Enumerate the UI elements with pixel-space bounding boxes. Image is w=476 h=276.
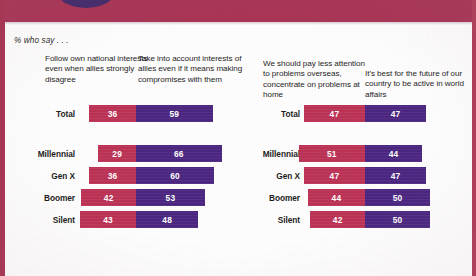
- page-border-left: [0, 0, 5, 276]
- bar-value-right: 50: [393, 193, 403, 203]
- stacked-bar: 4250: [310, 211, 430, 228]
- page-border-right: [472, 0, 476, 276]
- stacked-bar: 4253: [81, 189, 205, 206]
- header-band: [0, 0, 476, 22]
- bar-segment-right: 50: [365, 211, 430, 228]
- bar-value-left: 36: [108, 171, 118, 181]
- bar-segment-left: 42: [310, 211, 365, 228]
- bar-value-left: 36: [108, 109, 118, 119]
- chart-row: Silent4250: [240, 211, 472, 228]
- bar-value-left: 44: [332, 193, 342, 203]
- bar-value-right: 50: [393, 215, 403, 225]
- row-label-boomer: Boomer: [240, 193, 300, 203]
- chart-row: Boomer4450: [240, 189, 472, 206]
- bar-value-right: 47: [391, 109, 401, 119]
- bar-segment-right: 53: [136, 189, 205, 206]
- chart-row: Gen X4747: [240, 167, 472, 184]
- row-label-boomer: Boomer: [5, 193, 75, 203]
- bar-value-right: 44: [389, 149, 399, 159]
- bar-value-left: 42: [104, 193, 114, 203]
- bar-segment-right: 60: [136, 167, 214, 184]
- stacked-bar: 3659: [89, 105, 213, 122]
- bar-value-right: 60: [170, 171, 180, 181]
- decorative-ellipse: [58, 0, 114, 8]
- bar-segment-right: 47: [365, 105, 426, 122]
- question-header-0: Follow own national interests even when …: [45, 54, 150, 85]
- bar-value-right: 66: [174, 149, 184, 159]
- band-shadow: [0, 22, 476, 25]
- bar-segment-right: 66: [136, 145, 222, 162]
- chart-row: Boomer4253: [5, 189, 245, 206]
- stacked-bar: 5144: [299, 145, 423, 162]
- question-header-2: We should pay less attention to problems…: [263, 59, 368, 101]
- bar-value-left: 43: [103, 215, 113, 225]
- row-label-gen-x: Gen X: [5, 171, 75, 181]
- bar-segment-right: 59: [136, 105, 213, 122]
- stacked-bar: 4747: [304, 167, 426, 184]
- bar-segment-right: 47: [365, 167, 426, 184]
- bar-segment-left: 29: [98, 145, 136, 162]
- bar-segment-right: 44: [365, 145, 422, 162]
- infographic-page: % who say . . . Follow own national inte…: [0, 0, 476, 276]
- row-label-silent: Silent: [5, 215, 75, 225]
- stacked-bar: 4450: [308, 189, 430, 206]
- bar-segment-left: 43: [80, 211, 136, 228]
- bar-value-left: 42: [333, 215, 343, 225]
- row-label-total: Total: [240, 109, 300, 119]
- bar-segment-right: 48: [136, 211, 198, 228]
- bar-segment-left: 47: [304, 105, 365, 122]
- question-header-1: Take into account interests of allies ev…: [138, 54, 256, 85]
- stacked-bar: 4747: [304, 105, 426, 122]
- row-label-total: Total: [5, 109, 75, 119]
- bar-value-right: 53: [166, 193, 176, 203]
- percent-who-say-note: % who say . . .: [14, 36, 69, 45]
- bar-value-right: 47: [391, 171, 401, 181]
- bar-value-right: 59: [169, 109, 179, 119]
- bar-segment-right: 50: [365, 189, 430, 206]
- chart-row: Silent4348: [5, 211, 245, 228]
- row-label-millennial: Millennial: [240, 149, 300, 159]
- stacked-bar: 2966: [98, 145, 222, 162]
- row-label-millennial: Millennial: [5, 149, 75, 159]
- bar-segment-left: 44: [308, 189, 365, 206]
- question-header-3: It's best for the future of our country …: [365, 69, 475, 100]
- chart-row: Total4747: [240, 105, 472, 122]
- chart-row: Millennial2966: [5, 145, 245, 162]
- bar-value-left: 47: [330, 171, 340, 181]
- bar-value-left: 47: [330, 109, 340, 119]
- stacked-bar: 3660: [89, 167, 214, 184]
- bar-segment-left: 36: [89, 105, 136, 122]
- bar-segment-left: 47: [304, 167, 365, 184]
- chart-row: Total3659: [5, 105, 245, 122]
- chart-row: Millennial5144: [240, 145, 472, 162]
- chart-row: Gen X3660: [5, 167, 245, 184]
- row-label-silent: Silent: [240, 215, 300, 225]
- bar-segment-left: 36: [89, 167, 136, 184]
- bar-segment-left: 51: [299, 145, 365, 162]
- chart-content: % who say . . . Follow own national inte…: [5, 25, 472, 276]
- bar-value-left: 29: [112, 149, 122, 159]
- bar-value-left: 51: [327, 149, 337, 159]
- bar-value-right: 48: [162, 215, 172, 225]
- stacked-bar: 4348: [80, 211, 198, 228]
- row-label-gen-x: Gen X: [240, 171, 300, 181]
- bar-segment-left: 42: [81, 189, 136, 206]
